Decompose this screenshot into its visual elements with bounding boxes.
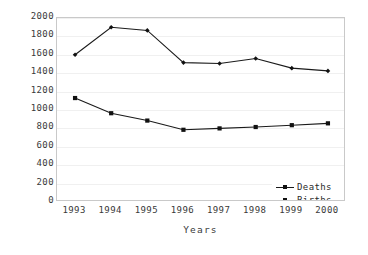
y-tick-label: 1600 xyxy=(6,49,54,58)
x-axis-title: Years xyxy=(56,224,345,235)
data-point-births-1994 xyxy=(109,111,113,115)
legend-label-births: Births xyxy=(297,194,332,201)
y-tick-label: 1400 xyxy=(6,67,54,76)
y-tick-label: 2000 xyxy=(6,12,54,21)
legend-marker-deaths-icon xyxy=(276,183,294,192)
series-layer xyxy=(57,18,345,201)
data-point-births-1995 xyxy=(145,118,149,122)
data-point-deaths-1998 xyxy=(253,56,258,61)
x-tick-label: 1994 xyxy=(90,205,130,215)
x-tick-label: 1999 xyxy=(271,205,311,215)
legend: Deaths Births xyxy=(272,178,345,201)
x-tick-label: 2000 xyxy=(307,205,347,215)
data-point-births-1997 xyxy=(217,126,221,130)
y-tick-label: 400 xyxy=(6,159,54,168)
y-tick-label: 600 xyxy=(6,141,54,150)
y-tick-label: 200 xyxy=(6,178,54,187)
x-tick-label: 1993 xyxy=(54,205,94,215)
data-point-births-2000 xyxy=(326,121,330,125)
x-tick-label: 1997 xyxy=(199,205,239,215)
line-chart: 2000180016001400120010008006004002000 De… xyxy=(0,0,368,255)
x-tick-label: 1995 xyxy=(126,205,166,215)
y-tick-label: 1000 xyxy=(6,104,54,113)
x-axis: 19931994199519961997199819992000 xyxy=(56,205,345,219)
data-point-births-1996 xyxy=(181,128,185,132)
data-point-births-1999 xyxy=(290,123,294,127)
data-point-deaths-2000 xyxy=(326,69,331,74)
y-tick-label: 0 xyxy=(6,196,54,205)
y-axis: 2000180016001400120010008006004002000 xyxy=(0,0,54,255)
data-point-deaths-1999 xyxy=(290,66,295,71)
x-tick-label: 1996 xyxy=(162,205,202,215)
legend-label-deaths: Deaths xyxy=(297,181,332,194)
y-tick-label: 1800 xyxy=(6,30,54,39)
legend-item-births[interactable]: Births xyxy=(276,194,345,201)
series-line-deaths xyxy=(75,27,328,71)
legend-marker-births-icon xyxy=(276,196,294,201)
x-tick-label: 1998 xyxy=(235,205,275,215)
plot-area: Deaths Births xyxy=(56,17,345,201)
y-tick-label: 1200 xyxy=(6,86,54,95)
y-tick-label: 800 xyxy=(6,122,54,131)
legend-item-deaths[interactable]: Deaths xyxy=(276,181,345,194)
data-point-deaths-1997 xyxy=(217,61,222,66)
data-point-births-1993 xyxy=(73,96,77,100)
data-point-births-1998 xyxy=(254,125,258,129)
